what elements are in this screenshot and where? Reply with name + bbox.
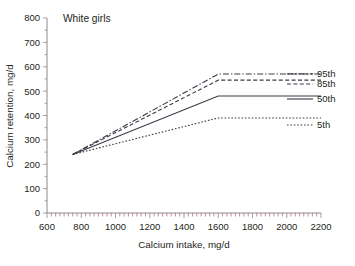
series-line-95th (73, 74, 321, 154)
y-tick-label: 0 (35, 207, 40, 218)
x-tick-label: 600 (39, 221, 55, 232)
legend-label-5th: 5th (317, 119, 330, 130)
y-axis-ticks (43, 18, 47, 213)
y-tick-label: 300 (24, 134, 40, 145)
x-tick-label: 1400 (173, 221, 194, 232)
y-axis-title: Calcium retention, mg/d (4, 64, 15, 167)
y-tick-label: 600 (24, 61, 40, 72)
series-line-85th (73, 80, 321, 154)
y-tick-label: 500 (24, 86, 40, 97)
y-tick-label: 800 (24, 12, 40, 23)
x-tick-label: 1800 (242, 221, 263, 232)
x-tick-label: 2200 (310, 221, 331, 232)
chart-canvas: 0 100 200 300 400 500 600 700 800 (0, 0, 355, 266)
legend: 95th 85th 50th 5th (287, 68, 336, 130)
y-tick-label: 100 (24, 183, 40, 194)
x-tick-label: 1600 (208, 221, 229, 232)
x-axis-title: Calcium intake, mg/d (138, 239, 229, 250)
y-tick-label: 400 (24, 110, 40, 121)
series-line-5th (73, 118, 321, 155)
x-tick-label: 800 (73, 221, 89, 232)
x-tick-label: 1000 (105, 221, 126, 232)
y-tick-label: 200 (24, 159, 40, 170)
legend-label-50th: 50th (317, 93, 336, 104)
x-tick-label: 1200 (139, 221, 160, 232)
legend-label-85th: 85th (317, 78, 336, 89)
x-axis-ticks (47, 213, 321, 218)
chart-container: 0 100 200 300 400 500 600 700 800 (0, 0, 355, 266)
y-tick-label: 700 (24, 37, 40, 48)
series-line-50th (73, 96, 321, 155)
x-tick-label: 2000 (276, 221, 297, 232)
chart-title: White girls (63, 13, 111, 24)
